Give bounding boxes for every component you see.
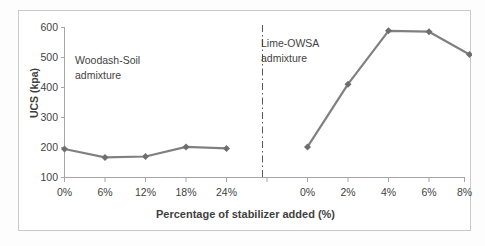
x-tick-label-right-8: 8% — [447, 186, 482, 198]
x-tick-label-left-6: 6% — [88, 186, 123, 198]
figure-canvas: 600 500 400 300 200 100 0% 6% 12% 18% 24… — [0, 0, 485, 246]
x-tick-label-right-4: 4% — [371, 186, 406, 198]
y-tick-label-200: 200 — [27, 141, 58, 153]
x-tick-label-right-6: 6% — [412, 186, 447, 198]
annotation-lime-owsa: Lime-OWSA admixture — [261, 36, 319, 66]
y-tick-marks — [61, 28, 65, 178]
chart-plot-area: 600 500 400 300 200 100 0% 6% 12% 18% 24… — [18, 10, 471, 231]
x-tick-label-left-24: 24% — [209, 186, 244, 198]
y-axis-title: UCS (kpa) — [28, 48, 40, 138]
y-tick-label-100: 100 — [27, 171, 58, 183]
series-markers-woodash — [61, 143, 230, 161]
annotation-woodash-soil: Woodash-Soil admixture — [75, 53, 140, 83]
x-axis-title: Percentage of stabilizer added (%) — [19, 208, 472, 220]
x-tick-label-left-18: 18% — [169, 186, 204, 198]
series-line-lime-owsa — [308, 31, 470, 147]
x-tick-label-right-2: 2% — [331, 186, 366, 198]
annotation-woodash-line1: Woodash-Soil — [75, 53, 140, 68]
x-tick-marks — [65, 178, 465, 183]
annotation-lime-line1: Lime-OWSA — [261, 36, 319, 51]
x-tick-label-left-12: 12% — [128, 186, 163, 198]
y-tick-label-600: 600 — [27, 21, 58, 33]
annotation-lime-line2: admixture — [261, 51, 319, 66]
annotation-woodash-line2: admixture — [75, 68, 140, 83]
series-markers-lime-owsa — [304, 27, 472, 150]
x-tick-label-right-0: 0% — [290, 186, 325, 198]
chart-svg — [19, 11, 472, 232]
series-line-lime — [308, 11, 465, 232]
x-tick-label-left-0: 0% — [47, 186, 82, 198]
